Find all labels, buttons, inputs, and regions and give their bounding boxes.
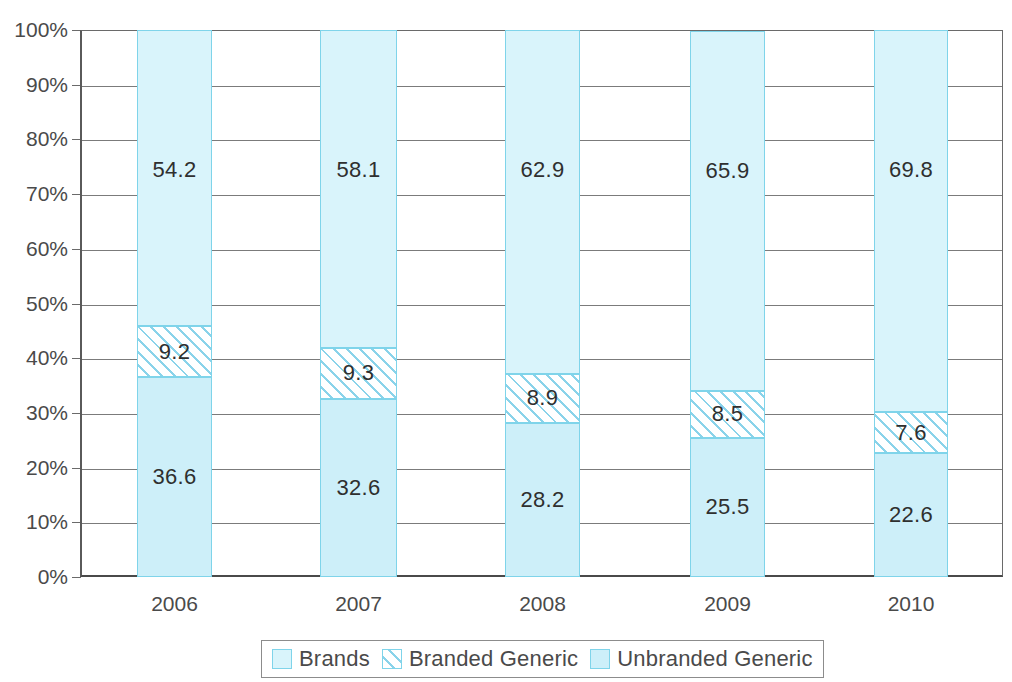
bar-segment[interactable]: 9.3 [320,348,397,399]
y-axis-tick-label: 40% [26,346,68,370]
chart-title [0,0,1012,6]
bar-segment[interactable]: 58.1 [320,30,397,348]
bar-segment[interactable]: 25.5 [690,438,765,577]
bar-value-label: 22.6 [889,504,933,526]
y-axis-tick-label: 90% [26,73,68,97]
y-axis-tick-label: 60% [26,237,68,261]
bar-value-label: 69.8 [889,159,933,181]
y-axis-tick-label: 30% [26,401,68,425]
bar-value-label: 8.9 [527,387,558,409]
bar-value-label: 36.6 [152,466,196,488]
y-axis-tick-label: 100% [14,18,68,42]
bar-segment[interactable]: 36.6 [137,377,212,577]
x-axis-tick-label: 2008 [519,592,566,616]
legend-item-label: Brands [299,646,370,672]
x-axis-tick-label: 2006 [151,592,198,616]
chart-legend: BrandsBranded GenericUnbranded Generic [261,640,824,678]
legend-item-label: Unbranded Generic [617,646,812,672]
bar-value-label: 28.2 [520,489,564,511]
y-axis-tick-label: 10% [26,510,68,534]
bar-segment[interactable]: 7.6 [874,412,948,454]
y-axis-tick-label: 0% [38,565,68,589]
y-axis-tick-label: 50% [26,292,68,316]
bar-value-label: 54.2 [152,159,196,181]
bar-segment[interactable]: 69.8 [874,30,948,412]
bar-value-label: 58.1 [336,159,380,181]
bar-value-label: 65.9 [705,160,749,182]
y-axis-tick-mark [72,577,81,578]
legend-item[interactable]: Branded Generic [382,646,578,672]
bar-segment[interactable]: 62.9 [505,30,580,374]
bar-segment[interactable]: 8.9 [505,374,580,423]
legend-swatch-icon [382,649,402,669]
bar-value-label: 8.5 [712,403,743,425]
y-axis-tick-label: 20% [26,456,68,480]
y-axis-tick-label: 70% [26,182,68,206]
legend-item-label: Branded Generic [409,646,578,672]
bar-segment[interactable]: 8.5 [690,391,765,437]
bar-value-label: 32.6 [336,477,380,499]
bar-segment[interactable]: 9.2 [137,326,212,376]
x-axis-tick-label: 2010 [888,592,935,616]
bar-value-label: 9.2 [159,341,190,363]
y-axis: 0%10%20%30%40%50%60%70%80%90%100% [0,0,80,682]
legend-swatch-icon [590,649,610,669]
x-axis-tick-label: 2009 [704,592,751,616]
bar-segment[interactable]: 28.2 [505,423,580,577]
legend-item[interactable]: Brands [272,646,370,672]
bar-value-label: 9.3 [343,362,374,384]
bar-value-label: 62.9 [520,159,564,181]
bar-value-label: 25.5 [705,496,749,518]
bar-value-label: 7.6 [895,422,926,444]
legend-item[interactable]: Unbranded Generic [590,646,812,672]
bar-segment[interactable]: 65.9 [690,31,765,391]
bar-segment[interactable]: 22.6 [874,453,948,577]
bar-segment[interactable]: 54.2 [137,30,212,326]
bar-segment[interactable]: 32.6 [320,399,397,577]
y-axis-tick-label: 80% [26,127,68,151]
legend-swatch-icon [272,649,292,669]
x-axis-tick-label: 2007 [335,592,382,616]
